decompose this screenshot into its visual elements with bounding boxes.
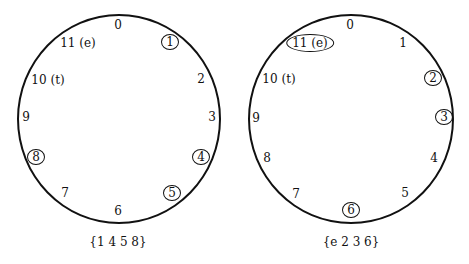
pc-1: 1	[399, 36, 407, 50]
pc-11-circled: 11 (e)	[286, 34, 334, 52]
pc-1-circled: 1	[161, 34, 179, 50]
pitch-clock-right: 0 1 2 3 4 5 6 7 8 9 10 (t) 11 (e) {e 2 3…	[234, 0, 468, 264]
pc-7: 7	[61, 186, 69, 200]
pc-0: 0	[346, 18, 354, 32]
set-caption: {1 4 5 8}	[89, 235, 146, 249]
pc-5-circled: 5	[163, 185, 181, 201]
pc-11: 11 (e)	[60, 36, 96, 50]
set-caption: {e 2 3 6}	[323, 235, 380, 249]
clock-circle	[248, 14, 454, 224]
pc-9: 9	[22, 110, 30, 124]
pc-7: 7	[292, 187, 300, 201]
pc-10: 10 (t)	[31, 73, 64, 87]
pc-3: 3	[208, 110, 216, 124]
pc-2: 2	[197, 72, 205, 86]
pc-4-circled: 4	[192, 149, 210, 165]
pc-4: 4	[430, 151, 438, 165]
pc-8-circled: 8	[27, 149, 45, 165]
pc-3-circled: 3	[435, 109, 453, 125]
clock-circle	[17, 14, 221, 224]
pc-6: 6	[114, 204, 122, 218]
pc-8: 8	[263, 151, 271, 165]
pc-2-circled: 2	[424, 70, 442, 86]
pc-5: 5	[401, 186, 409, 200]
pc-9: 9	[252, 111, 260, 125]
pc-10: 10 (t)	[262, 72, 295, 86]
pc-0: 0	[114, 18, 122, 32]
pitch-clock-left: 0 1 2 3 4 5 6 7 8 9 10 (t) 11 (e) {1 4 5…	[0, 0, 234, 264]
pc-6-circled: 6	[342, 202, 360, 218]
